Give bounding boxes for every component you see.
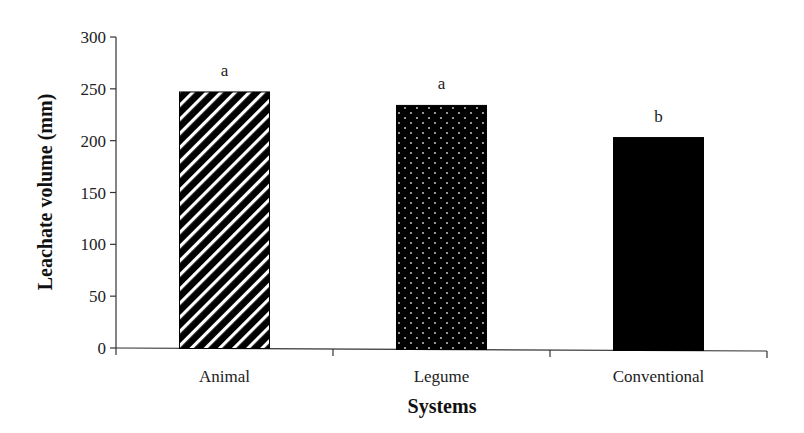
- x-category-label: Animal: [199, 367, 250, 386]
- significance-letter: b: [654, 107, 663, 126]
- y-axis-title: Leachate volume (mm): [34, 94, 57, 291]
- y-tick-label: 250: [81, 80, 107, 99]
- x-category-label: Conventional: [613, 367, 705, 386]
- significance-letter: a: [221, 61, 229, 80]
- y-tick-label: 150: [81, 184, 107, 203]
- significance-letter: a: [438, 74, 446, 93]
- bar-conventional: bConventional: [613, 107, 705, 386]
- bar-rect: [180, 92, 270, 349]
- bar-rect: [614, 138, 704, 351]
- bar-legume: aLegume: [397, 74, 487, 386]
- bar-animal: aAnimal: [180, 61, 270, 386]
- y-axis: 050100150200250300: [81, 28, 117, 358]
- y-tick-label: 100: [81, 235, 107, 254]
- bar-chart: 050100150200250300 aAnimalaLegumebConven…: [0, 0, 804, 433]
- bars: aAnimalaLegumebConventional: [180, 61, 705, 386]
- y-tick-label: 200: [81, 132, 107, 151]
- y-tick-label: 50: [89, 287, 106, 306]
- y-tick-label: 0: [98, 339, 107, 358]
- x-axis-title: Systems: [408, 395, 477, 418]
- bar-rect: [397, 105, 487, 349]
- y-tick-label: 300: [81, 28, 107, 47]
- x-category-label: Legume: [414, 367, 470, 386]
